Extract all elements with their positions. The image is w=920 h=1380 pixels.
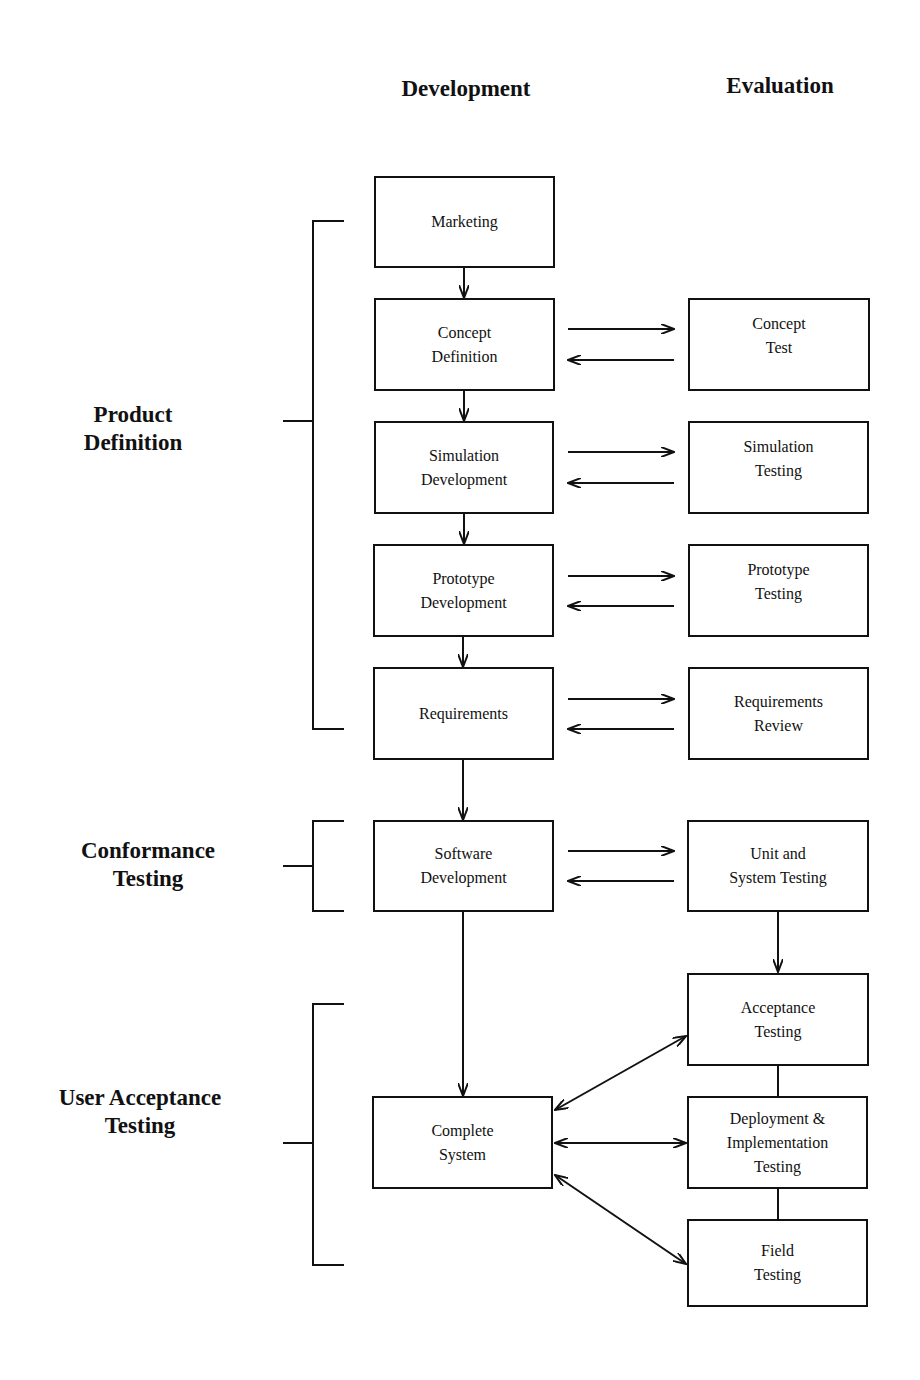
box-concept-test: ConceptTest	[688, 298, 870, 391]
box-complete-system: CompleteSystem	[372, 1096, 553, 1189]
bracket-product-definition	[283, 221, 344, 729]
box-concept-definition: ConceptDefinition	[374, 298, 555, 391]
box-requirements: Requirements	[373, 667, 554, 760]
bracket-conformance-testing	[283, 821, 344, 911]
box-requirements-review: RequirementsReview	[688, 667, 869, 760]
box-marketing: Marketing	[374, 176, 555, 268]
box-simulation-testing: SimulationTesting	[688, 421, 869, 514]
bracket-user-acceptance	[283, 1004, 344, 1265]
box-simulation-development: SimulationDevelopment	[374, 421, 554, 514]
box-unit-system-testing: Unit andSystem Testing	[687, 820, 869, 912]
box-acceptance-testing: AcceptanceTesting	[687, 973, 869, 1066]
box-prototype-development: PrototypeDevelopment	[373, 544, 554, 637]
phase-label-product-definition: Product Definition	[40, 401, 226, 457]
box-software-development: SoftwareDevelopment	[373, 820, 554, 912]
phase-label-conformance-testing: Conformance Testing	[50, 837, 246, 893]
column-heading-evaluation: Evaluation	[690, 73, 870, 99]
box-deployment-implementation-testing: Deployment &ImplementationTesting	[687, 1096, 868, 1189]
phase-label-user-acceptance-testing: User Acceptance Testing	[36, 1084, 244, 1140]
box-field-testing: FieldTesting	[687, 1219, 868, 1307]
box-prototype-testing: PrototypeTesting	[688, 544, 869, 637]
column-heading-development: Development	[374, 76, 558, 102]
